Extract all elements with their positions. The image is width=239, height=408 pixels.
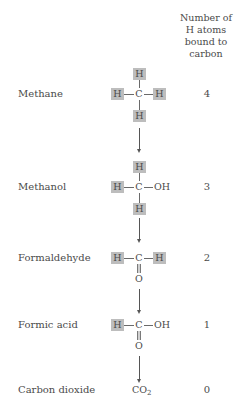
hydrogen-highlighted: H [133, 68, 146, 80]
compound-label-carbon-dioxide: Carbon dioxide [18, 384, 95, 396]
co2-formula: CO [132, 384, 147, 395]
h-count-methane: 4 [200, 88, 214, 100]
single-bond [124, 94, 134, 95]
single-bond [144, 94, 153, 95]
header-line-2: H atoms [176, 24, 236, 36]
hydroxyl-group: OH [154, 181, 172, 193]
carbon-atom: C [134, 319, 144, 331]
double-bond [137, 331, 141, 340]
header-line-3: bound to [176, 36, 236, 48]
h-count-formic-acid: 1 [200, 319, 214, 331]
down-arrow-icon [139, 128, 140, 150]
hydrogen-highlighted: H [111, 252, 124, 264]
hydroxyl-group: OH [154, 319, 172, 331]
h-count-formaldehyde: 2 [200, 252, 214, 264]
hydrogen-highlighted: H [133, 110, 146, 122]
hydrogen-highlighted: H [111, 181, 124, 193]
single-bond [139, 173, 140, 181]
single-bond [139, 80, 140, 88]
carbon-atom: C [134, 181, 144, 193]
carbon-atom: C [134, 88, 144, 100]
single-bond [144, 258, 153, 259]
single-bond [144, 325, 153, 326]
header-line-4: carbon [176, 48, 236, 60]
hydrogen-highlighted: H [133, 203, 146, 215]
compound-label-formic-acid: Formic acid [18, 319, 78, 331]
single-bond [124, 258, 134, 259]
hydrogen-highlighted: H [153, 252, 166, 264]
single-bond [124, 325, 134, 326]
hydrogen-highlighted: H [133, 161, 146, 173]
compound-label-formaldehyde: Formaldehyde [18, 252, 91, 264]
co2-subscript: 2 [147, 389, 151, 397]
down-arrow-icon [139, 218, 140, 240]
double-bond [137, 264, 141, 273]
compound-label-methanol: Methanol [18, 181, 66, 193]
hydrogen-highlighted: H [111, 319, 124, 331]
single-bond [139, 193, 140, 203]
hydrogen-highlighted: H [111, 88, 124, 100]
hydrogen-highlighted: H [153, 88, 166, 100]
h-count-methanol: 3 [200, 181, 214, 193]
column-header: Number of H atoms bound to carbon [176, 12, 236, 60]
carbon-atom: C [134, 252, 144, 264]
oxygen-atom: O [134, 273, 144, 285]
single-bond [124, 187, 134, 188]
oxygen-atom: O [134, 340, 144, 352]
single-bond [139, 100, 140, 110]
down-arrow-icon [139, 356, 140, 380]
structure-carbon-dioxide: CO2 [132, 384, 152, 396]
down-arrow-icon [139, 289, 140, 311]
h-count-carbon-dioxide: 0 [200, 384, 214, 396]
single-bond [144, 187, 153, 188]
header-line-1: Number of [176, 12, 236, 24]
compound-label-methane: Methane [18, 88, 63, 100]
